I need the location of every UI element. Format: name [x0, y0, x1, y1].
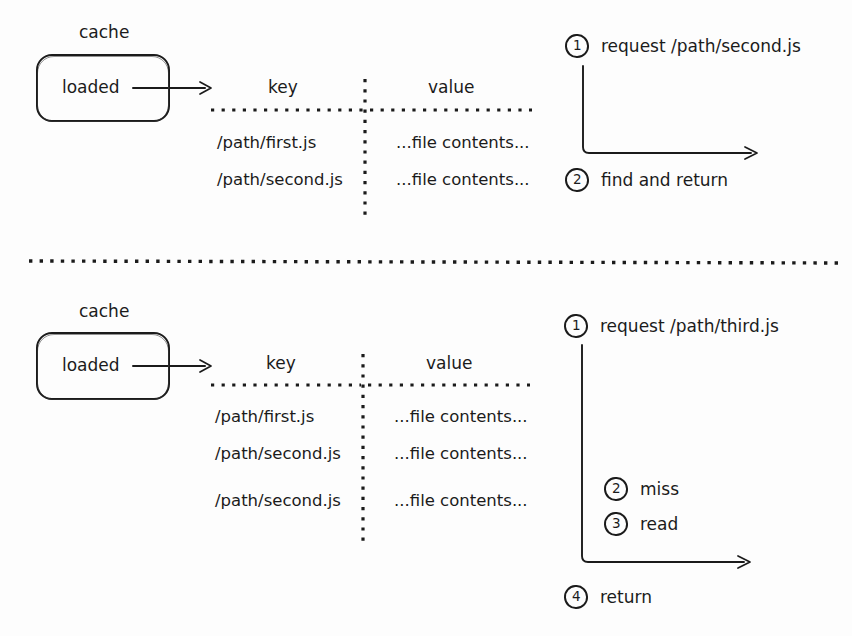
table-header-key-bottom: key	[266, 355, 296, 372]
table-header-key-top: key	[268, 79, 298, 96]
table-cell-key: /path/second.js	[215, 493, 341, 510]
table-cell-key: /path/second.js	[215, 446, 341, 463]
table-cell-value: ...file contents...	[396, 135, 530, 152]
step-label: miss	[640, 481, 679, 498]
step-number-badge: 3	[603, 511, 628, 536]
table-header-value-top: value	[428, 79, 474, 96]
table-cell-key: /path/first.js	[217, 135, 316, 152]
section-divider	[29, 261, 845, 263]
step-number-badge: 4	[563, 584, 588, 609]
table-cell-value: ...file contents...	[394, 446, 528, 463]
table-cell-value: ...file contents...	[396, 172, 530, 189]
step-number: 1	[572, 319, 581, 333]
loaded-label-bottom: loaded	[62, 357, 120, 374]
step-number-badge: 1	[564, 33, 589, 58]
step-number: 2	[573, 173, 582, 187]
step-number-badge: 2	[603, 476, 628, 501]
diagram-canvas: cache loaded key value /path/first.js ..…	[0, 0, 852, 636]
step-number-badge: 2	[564, 167, 589, 192]
step-label: return	[600, 589, 652, 606]
step-label: read	[640, 516, 678, 533]
table-cell-key: /path/first.js	[215, 409, 314, 426]
table-cell-value: ...file contents...	[394, 409, 528, 426]
flow-arrow-bottom	[582, 345, 750, 568]
table-header-value-bottom: value	[426, 355, 472, 372]
loaded-label-top: loaded	[62, 79, 120, 96]
table-cell-key: /path/second.js	[217, 172, 343, 189]
step-number-badge: 1	[563, 313, 588, 338]
step-number: 3	[612, 517, 621, 531]
table-cell-value: ...file contents...	[394, 493, 528, 510]
flow-arrow-top	[583, 66, 757, 159]
step-number: 2	[612, 482, 621, 496]
step-number: 1	[573, 39, 582, 53]
cache-label-bottom: cache	[79, 303, 129, 320]
step-label: request /path/second.js	[601, 38, 801, 55]
step-number: 4	[572, 590, 581, 604]
step-label: request /path/third.js	[600, 318, 779, 335]
step-label: find and return	[601, 172, 728, 189]
cache-label-top: cache	[79, 24, 129, 41]
